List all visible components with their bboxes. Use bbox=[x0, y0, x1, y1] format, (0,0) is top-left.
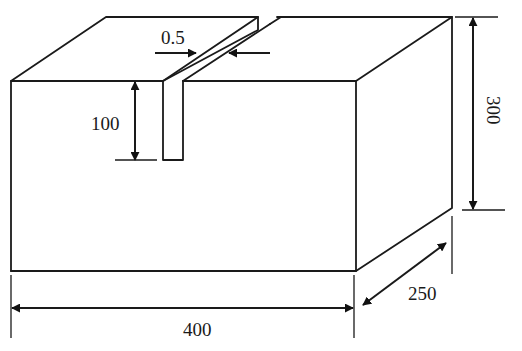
dimension-slot-depth: 100 bbox=[91, 82, 157, 160]
top-face-left bbox=[11, 17, 258, 81]
dimension-length: 400 bbox=[11, 275, 354, 340]
dimension-slot-width: 0.5 bbox=[155, 27, 270, 53]
top-face-slot-gap bbox=[270, 17, 281, 24]
slot-front bbox=[163, 81, 183, 160]
slotted-block-diagram: 0.5 100 300 400 250 bbox=[0, 0, 522, 351]
length-label: 400 bbox=[183, 319, 212, 340]
right-face bbox=[356, 17, 452, 271]
dimension-height: 300 bbox=[455, 17, 505, 210]
block-outline bbox=[11, 17, 452, 271]
dimension-depth: 250 bbox=[363, 216, 452, 305]
top-face-right-back bbox=[277, 17, 452, 81]
slot-width-label: 0.5 bbox=[161, 27, 185, 48]
front-face-left-top bbox=[11, 81, 163, 271]
height-label: 300 bbox=[483, 96, 504, 125]
slot-depth-label: 100 bbox=[91, 113, 120, 134]
depth-label: 250 bbox=[408, 283, 437, 304]
